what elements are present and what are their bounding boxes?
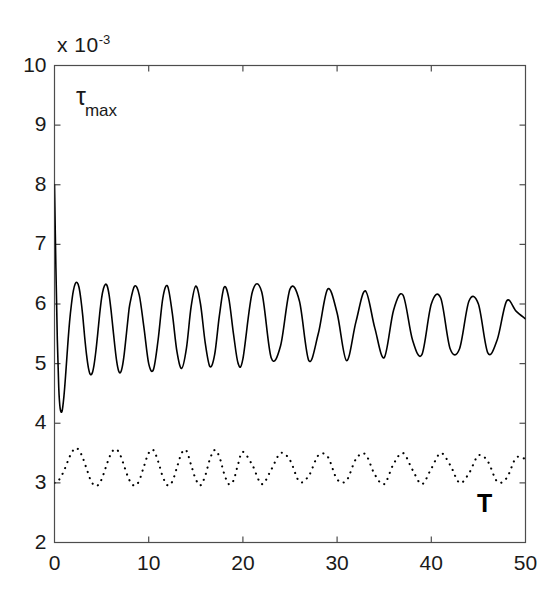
y-tick-label: 9 [3, 112, 47, 136]
plot-canvas [0, 0, 551, 605]
y-tick-label: 3 [3, 470, 47, 494]
x-tick-label: 40 [403, 551, 459, 575]
x-tick-label: 20 [215, 551, 271, 575]
y-tick-label: 10 [3, 53, 47, 77]
y-tick-label: 7 [3, 231, 47, 255]
data-series-solid [55, 185, 526, 413]
x-tick-label: 0 [27, 551, 83, 575]
data-series-dotted [55, 448, 526, 486]
y-tick-label: 5 [3, 351, 47, 375]
x-tick-label: 10 [121, 551, 177, 575]
y-tick-label: 4 [3, 410, 47, 434]
axes-box [55, 66, 526, 543]
y-tick-label: 6 [3, 291, 47, 315]
data-series-layer [55, 185, 526, 486]
y-tick-label: 8 [3, 172, 47, 196]
x-tick-label: 50 [498, 551, 551, 575]
x-tick-label: 30 [309, 551, 365, 575]
chart-figure: x 10-3 τmax T 234567891001020304050 [0, 0, 551, 605]
